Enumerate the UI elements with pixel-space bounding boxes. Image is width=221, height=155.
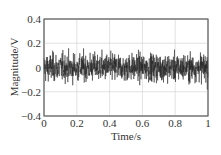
y-axis-label: Magnitude/V	[8, 38, 20, 97]
y-tick-label: 0.2	[27, 37, 41, 49]
y-tick-label: 0.4	[27, 13, 41, 25]
y-tick-label: −0.4	[21, 110, 41, 122]
y-tick-label: 0	[36, 62, 42, 74]
y-tick-label: −0.2	[21, 86, 41, 98]
x-tick-label: 0.8	[168, 117, 182, 129]
x-axis-ticks: 00.20.40.60.81	[41, 117, 211, 129]
x-tick-label: 0	[41, 117, 47, 129]
y-axis-ticks: 0.40.20−0.2−0.4	[21, 13, 41, 122]
x-tick-label: 1	[205, 117, 211, 129]
x-tick-label: 0.2	[70, 117, 84, 129]
x-axis-label: Time/s	[111, 130, 141, 142]
chart: 0.40.20−0.2−0.4 00.20.40.60.81 Time/s Ma…	[0, 0, 221, 155]
plot-area	[44, 19, 208, 116]
x-tick-label: 0.4	[103, 117, 117, 129]
x-tick-label: 0.6	[136, 117, 150, 129]
